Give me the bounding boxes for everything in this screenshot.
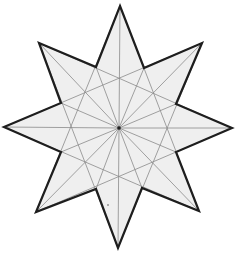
stray-mark <box>107 204 109 206</box>
star-diagram <box>0 0 235 258</box>
center-point <box>117 126 121 130</box>
eight-pointed-star-figure <box>0 0 235 258</box>
